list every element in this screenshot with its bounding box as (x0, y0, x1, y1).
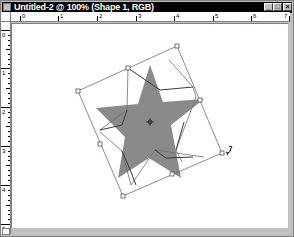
handle-right-middle (198, 98, 202, 102)
handle-bottom-left (121, 194, 125, 198)
handle-bottom-right (220, 151, 224, 155)
handle-left-middle (98, 142, 102, 146)
handle-top-right (175, 44, 179, 48)
handle-bottom-middle (170, 172, 174, 176)
handle-top-left (76, 89, 80, 93)
handle-top-middle (126, 66, 130, 70)
shape-layer (0, 0, 294, 237)
rotate-cursor-icon (226, 146, 232, 155)
